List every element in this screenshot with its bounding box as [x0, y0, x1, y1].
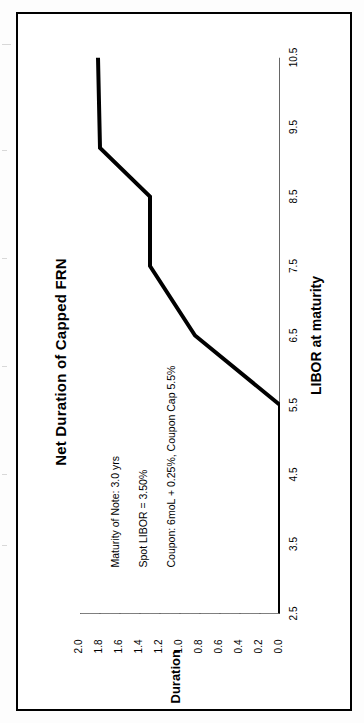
axis-lines — [80, 57, 280, 613]
y-tick-label: 1.6 — [113, 639, 124, 665]
y-tick-label: 0.2 — [253, 639, 264, 665]
y-tick-label: 0.4 — [233, 639, 244, 665]
y-tick-label: 1.4 — [133, 639, 144, 665]
chart-frame: Net Duration of Capped FRN Maturity of N… — [16, 12, 352, 711]
scan-edge-marks — [0, 0, 14, 723]
y-tick-label: 1.2 — [153, 639, 164, 665]
x-tick-label: 7.5 — [288, 246, 299, 286]
x-tick-label: 4.5 — [288, 454, 299, 494]
series-net-duration — [98, 57, 280, 613]
x-tick-label: 9.5 — [288, 107, 299, 147]
x-tick-label: 3.5 — [288, 524, 299, 564]
x-axis-title: LIBOR at maturity — [308, 57, 324, 613]
y-tick-label: 0.0 — [273, 639, 284, 665]
x-tick-label: 5.5 — [288, 385, 299, 425]
y-tick-label: 0.6 — [213, 639, 224, 665]
x-tick-label: 6.5 — [288, 315, 299, 355]
x-tick-label: 2.5 — [288, 593, 299, 633]
x-tick-label: 10.5 — [288, 37, 299, 77]
line-chart-svg — [80, 57, 280, 613]
y-tick-label: 2.0 — [73, 639, 84, 665]
x-tick-label: 8.5 — [288, 176, 299, 216]
chart-stage: Net Duration of Capped FRN Maturity of N… — [18, 14, 350, 709]
y-tick-label: 1.8 — [93, 639, 104, 665]
y-tick-label: 1.0 — [173, 639, 184, 665]
page-background: Net Duration of Capped FRN Maturity of N… — [0, 0, 364, 723]
plot-area — [80, 57, 280, 613]
y-tick-label: 0.8 — [193, 639, 204, 665]
chart-title: Net Duration of Capped FRN — [52, 14, 69, 709]
